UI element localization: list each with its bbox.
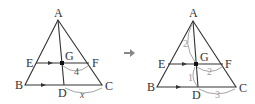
parallel-mark-icon bbox=[48, 61, 53, 65]
label-gf-length: 2 bbox=[207, 66, 212, 77]
label-f: F bbox=[225, 57, 232, 71]
label-a: A bbox=[189, 6, 198, 20]
label-a: A bbox=[54, 6, 63, 20]
label-e: E bbox=[26, 56, 33, 70]
segment-ad bbox=[58, 20, 64, 85]
label-dc-length: 3 bbox=[215, 89, 220, 100]
label-b: B bbox=[147, 80, 155, 94]
segment-ad bbox=[193, 21, 198, 87]
parallel-mark-icon bbox=[176, 85, 181, 89]
label-e: E bbox=[158, 57, 165, 71]
label-dc-length: x bbox=[79, 89, 85, 100]
label-g: G bbox=[65, 49, 74, 63]
label-c: C bbox=[105, 79, 113, 93]
label-f: F bbox=[92, 56, 99, 70]
label-d: D bbox=[58, 86, 67, 100]
label-g: G bbox=[200, 50, 209, 64]
label-c: C bbox=[239, 81, 247, 95]
diagram-canvas: A B C D E F G 4 x A B C D E F G 2 1 2 bbox=[0, 0, 255, 104]
label-ag-length: 2 bbox=[183, 38, 188, 49]
label-gd-length: 1 bbox=[188, 72, 193, 83]
point-g-marker bbox=[60, 61, 64, 65]
label-d: D bbox=[192, 88, 201, 102]
triangle-abc bbox=[157, 21, 236, 87]
right-figure: A B C D E F G 2 1 2 3 bbox=[147, 6, 247, 102]
left-figure: A B C D E F G 4 x bbox=[15, 6, 113, 100]
parallel-mark-icon bbox=[182, 62, 187, 66]
label-gf-length: 4 bbox=[74, 66, 79, 77]
label-b: B bbox=[15, 78, 23, 92]
right-arrow-icon bbox=[124, 49, 135, 57]
parallel-mark-icon bbox=[41, 83, 46, 87]
point-g-marker bbox=[194, 62, 198, 66]
